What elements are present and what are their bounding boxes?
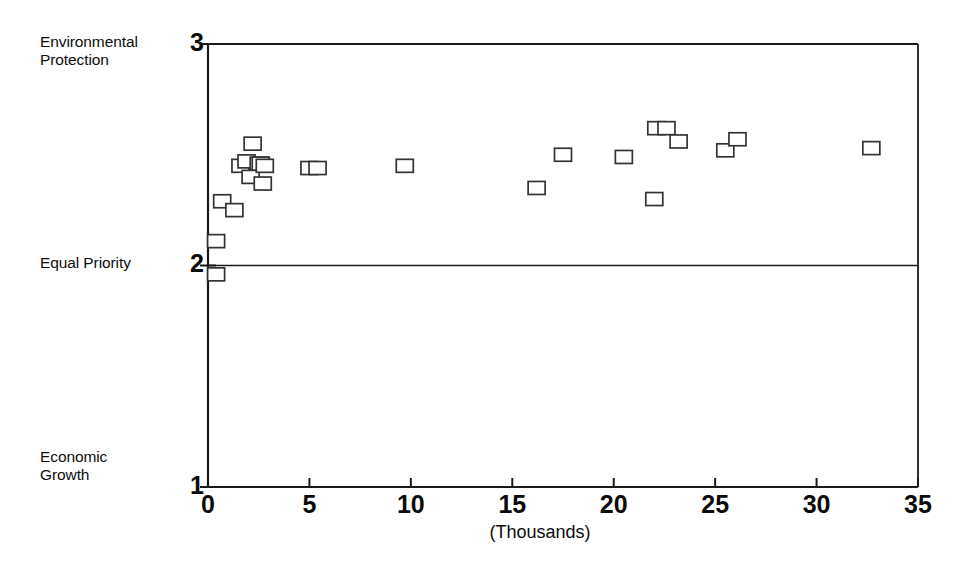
data-point-marker <box>226 204 243 217</box>
data-point-marker <box>309 162 326 175</box>
data-point-marker <box>658 122 675 135</box>
data-point-marker <box>244 137 261 150</box>
plot-area <box>0 0 970 574</box>
data-point-marker <box>208 268 225 281</box>
data-point-marker <box>396 159 413 172</box>
data-point-marker <box>208 235 225 248</box>
data-points-group <box>208 122 880 281</box>
data-point-marker <box>646 193 663 206</box>
data-point-marker <box>254 177 271 190</box>
data-point-marker <box>670 135 687 148</box>
x-axis-title-text: (Thousands) <box>489 522 590 542</box>
data-point-marker <box>256 159 273 172</box>
scatter-chart: Environmental Protection Equal Priority … <box>0 0 970 574</box>
data-point-marker <box>615 150 632 163</box>
x-axis-title: (Thousands) <box>0 522 970 543</box>
data-point-marker <box>528 181 545 194</box>
data-point-marker <box>555 148 572 161</box>
data-point-marker <box>863 142 880 155</box>
data-point-marker <box>729 133 746 146</box>
